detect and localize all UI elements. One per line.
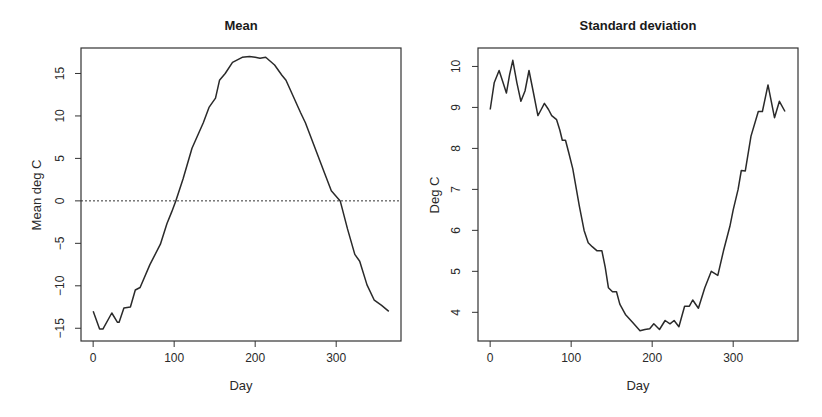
x-tick-label: 300 [326, 351, 346, 365]
figure: Mean 0100200300 −15−10−5051015 Day Mean … [0, 0, 822, 417]
mean-plot-area [81, 48, 401, 341]
std-x-axis-label: Day [626, 378, 650, 393]
std-chart-title: Standard deviation [579, 18, 696, 33]
mean-y-axis-label: Mean deg C [29, 160, 44, 231]
y-tick-label: 8 [449, 145, 463, 152]
std-curve [490, 60, 785, 331]
mean-y-axis: −15−10−5051015 [53, 66, 81, 338]
std-y-axis: 45678910 [449, 59, 478, 315]
y-tick-label: 9 [449, 104, 463, 111]
std-panel: Standard deviation 0100200300 45678910 D… [427, 18, 798, 393]
x-tick-label: 0 [487, 351, 494, 365]
std-y-axis-label: Deg C [427, 177, 442, 214]
y-tick-label: 7 [449, 186, 463, 193]
x-tick-label: 300 [723, 351, 743, 365]
y-tick-label: −10 [53, 275, 67, 296]
x-tick-label: 200 [642, 351, 662, 365]
y-tick-label: 5 [53, 155, 67, 162]
mean-x-axis-label: Day [229, 378, 253, 393]
mean-panel: Mean 0100200300 −15−10−5051015 Day Mean … [29, 18, 401, 393]
y-tick-label: −15 [53, 318, 67, 339]
x-tick-label: 200 [245, 351, 265, 365]
y-tick-label: 0 [53, 197, 67, 204]
y-tick-label: −5 [53, 236, 67, 250]
mean-chart-title: Mean [224, 18, 257, 33]
y-tick-label: 10 [53, 109, 67, 123]
y-tick-label: 5 [449, 268, 463, 275]
x-tick-label: 100 [164, 351, 184, 365]
mean-x-axis: 0100200300 [90, 341, 347, 365]
mean-curve [93, 57, 389, 330]
y-tick-label: 6 [449, 227, 463, 234]
x-tick-label: 100 [561, 351, 581, 365]
y-tick-label: 4 [449, 309, 463, 316]
std-x-axis: 0100200300 [487, 341, 744, 365]
x-tick-label: 0 [90, 351, 97, 365]
std-plot-area [478, 48, 798, 341]
y-tick-label: 15 [53, 66, 67, 80]
y-tick-label: 10 [449, 59, 463, 73]
